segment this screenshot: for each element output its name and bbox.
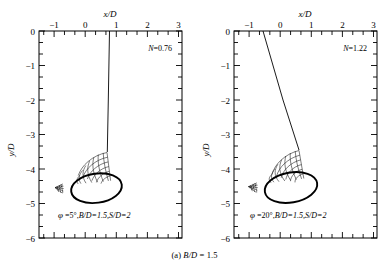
- x-axis-ticks: [239, 31, 374, 238]
- y-tick-label: −4: [220, 165, 230, 175]
- panel-right-plot: x/D −1 0 1 2 3 y/D 0 −1 −2 −3 −4 −5 −6: [195, 0, 389, 250]
- caption-prefix: (a): [171, 250, 183, 260]
- x-tick-label: 2: [340, 20, 345, 30]
- x-tick-label: −1: [49, 20, 59, 30]
- x-tick-label: 3: [371, 20, 376, 30]
- panel-right: x/D −1 0 1 2 3 y/D 0 −1 −2 −3 −4 −5 −6: [195, 0, 389, 250]
- mooring-line: [107, 31, 109, 152]
- x-axis-title: x/D: [103, 9, 117, 19]
- y-tick-label: −3: [220, 130, 230, 140]
- y-tick-label: −3: [25, 130, 35, 140]
- params-rest: B/D=1.5,S/D=2: [275, 211, 327, 220]
- x-tick-label: −1: [244, 20, 254, 30]
- n-value-label: N=0.76: [147, 44, 172, 53]
- x-tick-label: 0: [278, 20, 283, 30]
- y-tick-label: −6: [25, 234, 35, 244]
- x-axis-title: x/D: [298, 9, 312, 19]
- anchor-outline: [262, 168, 319, 207]
- x-tick-label: 0: [83, 20, 88, 30]
- phi-value: =20°,: [255, 211, 275, 220]
- anchor-outline: [69, 170, 124, 206]
- n-number: =0.76: [153, 44, 172, 53]
- parameters-label: φ =20°,B/D=1.5,S/D=2: [250, 210, 326, 220]
- y-tick-label: −2: [25, 96, 35, 106]
- y-tick-label: −1: [220, 61, 230, 71]
- y-axis-title: y/D: [6, 143, 16, 157]
- y-axis-title: y/D: [201, 143, 211, 157]
- parameters-label: φ =5°,B/D=1.5,S/D=2: [58, 210, 130, 220]
- y-tick-label: −2: [220, 96, 230, 106]
- x-tick-label: 1: [309, 20, 314, 30]
- panel-left-plot: x/D −1 0 1 2 3 y/D 0 −1 −2 −3 −4 −5 −6: [0, 0, 194, 250]
- x-axis-ticks: [44, 31, 179, 238]
- y-tick-label: −5: [25, 199, 35, 209]
- y-tick-label: −4: [25, 165, 35, 175]
- plot-frame: [39, 31, 182, 238]
- caption-label: B/D: [183, 250, 197, 260]
- y-tick-label: −1: [25, 61, 35, 71]
- panel-left: x/D −1 0 1 2 3 y/D 0 −1 −2 −3 −4 −5 −6: [0, 0, 194, 250]
- y-axis-ticks: [39, 31, 182, 238]
- soil-mesh: [77, 153, 111, 185]
- x-tick-label: 2: [145, 20, 150, 30]
- plot-frame: [234, 31, 377, 238]
- tip-mesh: [55, 184, 64, 193]
- x-tick-label: 3: [176, 20, 181, 30]
- n-number: =1.22: [348, 44, 367, 53]
- y-tick-label: 0: [31, 27, 36, 37]
- n-value-label: N=1.22: [342, 44, 367, 53]
- figure-container: x/D −1 0 1 2 3 y/D 0 −1 −2 −3 −4 −5 −6: [0, 0, 389, 274]
- tip-mesh: [249, 183, 258, 193]
- y-tick-label: −6: [220, 234, 230, 244]
- x-tick-label: 1: [114, 20, 119, 30]
- figure-caption: (a) B/D = 1.5: [0, 250, 389, 260]
- y-tick-label: 0: [226, 27, 231, 37]
- y-axis-ticks: [234, 31, 377, 238]
- caption-value: = 1.5: [197, 250, 217, 260]
- phi-value: =5°,: [63, 211, 79, 220]
- y-tick-label: −5: [220, 199, 230, 209]
- mooring-line: [263, 31, 299, 150]
- params-rest: B/D=1.5,S/D=2: [79, 211, 131, 220]
